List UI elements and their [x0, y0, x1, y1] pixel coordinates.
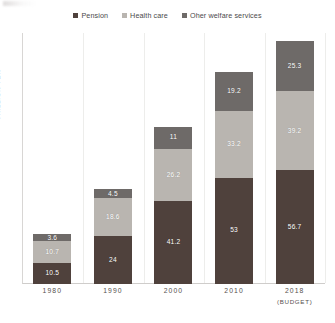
bar-value-label: 19.2: [227, 88, 241, 95]
bar-segment-health-care-1990[interactable]: 18.6: [94, 198, 132, 235]
bar-segment-oher-welfare-services-2000[interactable]: 11: [154, 127, 192, 149]
bar-value-label: 24: [109, 257, 117, 264]
stacked-bar-chart: Pension Health care Oher welfare service…: [0, 0, 335, 323]
bar-segment-pension-1990[interactable]: 24: [94, 236, 132, 284]
legend-swatch-health-care: [122, 13, 127, 18]
bar-value-label: 10.5: [45, 270, 59, 277]
x-axis-tick-1980: 1980: [22, 286, 83, 306]
x-axis-tick-1990: 1990: [83, 286, 144, 306]
bar-column-1980: 3.610.710.5: [22, 33, 83, 284]
bar-column-2010: 19.233.253: [204, 33, 265, 284]
bar-value-label: 10.7: [45, 249, 59, 256]
stacked-bar-2010[interactable]: 19.233.253: [215, 72, 253, 284]
bar-segment-pension-2000[interactable]: 41.2: [154, 201, 192, 284]
bar-series-container: 3.610.710.54.518.6241126.241.219.233.253…: [22, 33, 325, 284]
bar-segment-oher-welfare-services-2010[interactable]: 19.2: [215, 72, 253, 111]
bar-segment-health-care-2000[interactable]: 26.2: [154, 149, 192, 202]
x-axis-labels: 19801990200020102018(BUDGET): [22, 286, 325, 306]
legend-item-health-care[interactable]: Health care: [122, 11, 168, 20]
x-axis-tick-2018: 2018(BUDGET): [264, 286, 325, 306]
bar-column-2000: 1126.241.2: [143, 33, 204, 284]
bar-segment-oher-welfare-services-1990[interactable]: 4.5: [94, 189, 132, 198]
legend-item-other-welfare-services[interactable]: Oher welfare services: [182, 11, 262, 20]
chart-legend: Pension Health care Oher welfare service…: [0, 11, 335, 20]
y-axis-title: TRILLION YEN: [0, 69, 1, 120]
bar-segment-health-care-2010[interactable]: 33.2: [215, 111, 253, 178]
bar-value-label: 39.2: [288, 128, 302, 135]
bar-segment-health-care-2018[interactable]: 39.2: [276, 91, 314, 170]
bar-segment-pension-2010[interactable]: 53: [215, 178, 253, 284]
legend-label-other-welfare-services: Oher welfare services: [190, 11, 262, 20]
bar-segment-health-care-1980[interactable]: 10.7: [33, 241, 71, 262]
bar-value-label: 11: [170, 134, 177, 141]
bar-segment-pension-1980[interactable]: 10.5: [33, 263, 71, 284]
legend-item-pension[interactable]: Pension: [73, 11, 108, 20]
bar-value-label: 41.2: [167, 239, 181, 246]
stacked-bar-2018[interactable]: 25.339.256.7: [276, 41, 314, 284]
bar-column-2018: 25.339.256.7: [264, 33, 325, 284]
stacked-bar-1990[interactable]: 4.518.624: [94, 189, 132, 284]
x-axis-tick-2010: 2010: [204, 286, 265, 306]
stacked-bar-2000[interactable]: 1126.241.2: [154, 127, 192, 284]
legend-swatch-pension: [73, 13, 78, 18]
x-axis-tick-2000: 2000: [143, 286, 204, 306]
legend-label-pension: Pension: [81, 11, 108, 20]
gridline: [325, 33, 326, 283]
legend-label-health-care: Health care: [130, 11, 168, 20]
bar-segment-oher-welfare-services-2018[interactable]: 25.3: [276, 41, 314, 92]
bar-segment-oher-welfare-services-1980[interactable]: 3.6: [33, 234, 71, 241]
stacked-bar-1980[interactable]: 3.610.710.5: [33, 234, 71, 284]
bar-segment-pension-2018[interactable]: 56.7: [276, 170, 314, 284]
bar-column-1990: 4.518.624: [83, 33, 144, 284]
bar-value-label: 53: [230, 227, 238, 234]
bar-value-label: 33.2: [227, 141, 241, 148]
bar-value-label: 3.6: [47, 235, 57, 242]
legend-swatch-other-welfare-services: [182, 13, 187, 18]
bar-value-label: 56.7: [288, 224, 302, 231]
x-axis-tick-sublabel: (BUDGET): [264, 297, 325, 307]
bar-value-label: 4.5: [108, 191, 118, 198]
bar-value-label: 18.6: [106, 214, 120, 221]
bar-value-label: 25.3: [288, 63, 302, 70]
bar-value-label: 26.2: [167, 172, 181, 179]
